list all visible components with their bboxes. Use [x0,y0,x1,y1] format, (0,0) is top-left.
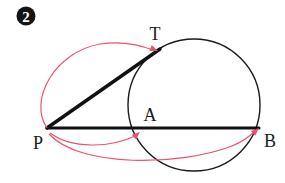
geometry-figure: 2 T A P B [0,0,285,183]
point-label-A: A [144,105,157,125]
point-label-P: P [33,133,43,153]
figure-background [0,0,285,183]
figure-canvas: 2 T A P B [0,0,285,183]
point-label-B: B [264,131,276,151]
question-number-badge: 2 [17,7,36,26]
point-label-T: T [150,24,161,44]
badge-number-label: 2 [22,9,30,25]
